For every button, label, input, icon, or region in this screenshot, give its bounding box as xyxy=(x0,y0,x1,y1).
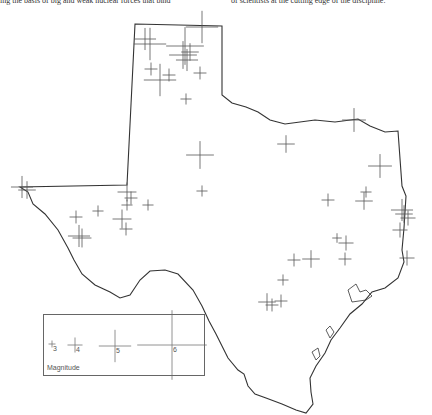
epicenter-cross-icon xyxy=(73,229,92,248)
magnitude-legend: Magnitude xyxy=(43,314,205,376)
epicenter-cross-icon xyxy=(186,141,214,169)
epicenter-cross-icon xyxy=(277,135,295,153)
epicenter-cross-icon xyxy=(266,299,279,312)
epicenter-cross-icon xyxy=(18,181,36,199)
epicenter-cross-icon xyxy=(360,186,371,197)
legend-label-6: 6 xyxy=(173,346,177,353)
epicenter-cross-icon xyxy=(355,192,373,210)
epicenter-cross-icon xyxy=(342,108,366,132)
epicenter-cross-icon xyxy=(163,69,176,82)
epicenter-cross-icon xyxy=(258,293,276,311)
epicenter-cross-icon xyxy=(68,225,90,247)
epicenter-cross-icon xyxy=(196,185,207,196)
epicenter-cross-icon xyxy=(332,233,342,243)
legend-label-5: 5 xyxy=(116,347,120,354)
epicenter-cross-icon xyxy=(169,41,197,69)
epicenter-cross-icon xyxy=(186,11,218,43)
epicenter-cross-icon xyxy=(339,253,352,266)
epicenter-cross-icon xyxy=(70,211,83,224)
epicenter-cross-icon xyxy=(395,205,413,223)
legend-label-3: 3 xyxy=(53,345,57,352)
epicenter-cross-icon xyxy=(400,210,415,225)
epicenter-cross-icon xyxy=(288,254,301,267)
epicenter-cross-icon xyxy=(134,28,156,50)
epicenter-cross-icon xyxy=(166,27,204,65)
legend-title: Magnitude xyxy=(47,364,80,371)
epicenter-cross-icon xyxy=(125,192,138,205)
epicenter-cross-icon xyxy=(134,28,166,60)
epicenter-cross-icon xyxy=(368,154,392,178)
epicenter-cross-icon xyxy=(120,223,133,236)
epicenter-cross-icon xyxy=(275,295,288,308)
epicenter-cross-icon xyxy=(142,199,153,210)
legend-label-4: 4 xyxy=(76,346,80,353)
epicenter-cross-icon xyxy=(322,194,335,207)
epicenter-cross-icon xyxy=(277,274,288,285)
epicenter-cross-icon xyxy=(392,222,407,237)
epicenter-cross-icon xyxy=(113,210,132,229)
epicenter-cross-icon xyxy=(180,93,191,104)
epicenter-cross-icon xyxy=(194,67,207,80)
epicenter-cross-icon xyxy=(399,250,414,265)
epicenter-cross-icon xyxy=(92,205,103,216)
epicenter-cross-icon xyxy=(302,250,320,268)
epicenter-markers xyxy=(11,11,416,312)
epicenter-cross-icon xyxy=(145,63,158,76)
coastal-bays xyxy=(312,284,372,360)
